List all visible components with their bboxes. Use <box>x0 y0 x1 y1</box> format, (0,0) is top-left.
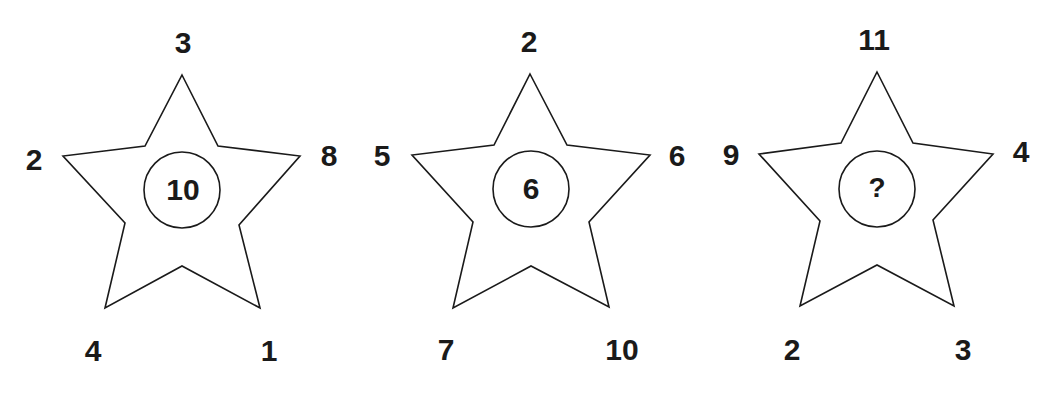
star-3-right-number: 4 <box>1013 137 1030 167</box>
star-3-top-number: 11 <box>858 25 890 55</box>
star-3-left-number: 9 <box>723 140 740 170</box>
star-3-shape <box>0 0 1056 398</box>
star-3-bottom-right-number: 3 <box>955 335 972 365</box>
star-3: 11 9 4 2 3 ? <box>0 0 1056 398</box>
star-3-center-unknown: ? <box>868 174 885 202</box>
number-star-puzzle: 3 2 8 4 1 10 2 5 6 7 10 6 11 9 4 2 3 ? <box>0 0 1056 398</box>
star-3-bottom-left-number: 2 <box>784 335 801 365</box>
